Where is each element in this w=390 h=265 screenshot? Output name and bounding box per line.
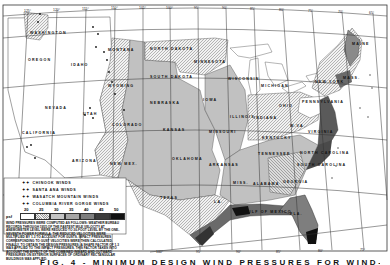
state-label: MONTANA xyxy=(108,48,135,52)
state-label: MISS. xyxy=(233,181,249,185)
state-label: ARKANSAS xyxy=(209,163,239,167)
scale-unit: psf xyxy=(6,214,12,219)
state-label: WISCONSIN xyxy=(228,77,260,81)
state-label: WYOMING xyxy=(108,84,134,88)
scale-value: 30 xyxy=(54,207,58,212)
state-label: CALIFORNIA xyxy=(22,131,56,135)
longitude-tick-label: 90° xyxy=(222,6,227,10)
longitude-tick-label: 105° xyxy=(139,6,146,10)
state-label: INDIANA xyxy=(254,116,277,120)
longitude-tick-label: 75° xyxy=(360,248,365,252)
longitude-tick-label: 95° xyxy=(194,6,199,10)
wind-marker-icon: ✦✦ xyxy=(22,194,29,199)
scale-swatch xyxy=(20,213,35,220)
state-label: SOUTH DAKOTA xyxy=(150,75,193,79)
state-label: NEBRASKA xyxy=(150,101,180,105)
scale-value: 35 xyxy=(69,207,73,212)
state-label: GULF OF MEXICO xyxy=(244,210,292,214)
scale-swatch xyxy=(65,213,80,220)
state-label: MASS. xyxy=(343,76,360,80)
state-label: VIRGINIA xyxy=(308,130,334,134)
state-label: SOUTH CAROLINA xyxy=(297,163,346,167)
state-label: MAINE xyxy=(352,42,370,46)
state-label: OHIO xyxy=(279,104,293,108)
longitude-tick-label: 125° xyxy=(24,9,31,13)
longitude-tick-label: 85° xyxy=(250,7,255,11)
longitude-tick-label: 85° xyxy=(276,250,281,254)
longitude-tick-label: 80° xyxy=(279,8,284,12)
longitude-tick-label: 65° xyxy=(369,11,374,15)
state-label: FLA. xyxy=(290,212,303,216)
longitude-tick-label: 110° xyxy=(111,6,118,10)
legend-chinook: ✦✦CHINOOK WINDS xyxy=(22,180,71,185)
state-label: IDAHO xyxy=(71,63,89,67)
longitude-tick-label: 70° xyxy=(338,10,343,14)
state-label: UTAH xyxy=(83,112,98,116)
scale-value: 40 xyxy=(84,207,88,212)
longitude-tick-label: 115° xyxy=(82,7,89,11)
scale-swatch xyxy=(95,213,110,220)
state-label: NEVADA xyxy=(45,106,67,110)
state-label: COLORADO xyxy=(112,123,143,127)
state-label: TEXAS xyxy=(160,196,178,200)
figure-caption: FIG. 4 - MINIMUM DESIGN WIND PRESSURES F… xyxy=(40,257,380,265)
longitude-tick-label: 95° xyxy=(196,250,201,254)
state-label: TENNESSEE xyxy=(258,152,291,156)
scale-value: 25 xyxy=(39,207,43,212)
state-label: OREGON xyxy=(28,58,51,62)
state-label: LA. xyxy=(214,200,223,204)
state-label: ARIZONA xyxy=(72,159,97,163)
state-label: KANSAS xyxy=(163,128,185,132)
scale-value: 45 xyxy=(99,207,103,212)
state-label: NORTH DAKOTA xyxy=(150,47,193,51)
legend-santa-ana: ✦✦SANTA ANA WINDS xyxy=(22,187,76,192)
wind-marker-icon: ✦✦ xyxy=(22,201,29,206)
longitude-tick-label: 75° xyxy=(308,9,313,13)
state-label: ALABAMA xyxy=(253,182,280,186)
state-label: KENTUCKY xyxy=(262,136,292,140)
state-label: NEW MEX. xyxy=(110,162,138,166)
longitude-tick-label: 90° xyxy=(236,250,241,254)
scale-swatch xyxy=(80,213,95,220)
computation-note: Wind pressures were computed as follows:… xyxy=(6,222,124,262)
wind-marker-icon: ✦✦ xyxy=(22,187,29,192)
longitude-tick-label: 120° xyxy=(53,8,60,12)
wind-marker-icon: ✦✦ xyxy=(22,180,29,185)
pressure-scale: psf 20253035404550 xyxy=(4,207,126,221)
state-label: W.VA. xyxy=(290,124,306,128)
longitude-tick-label: 80° xyxy=(318,249,323,253)
state-label: GEORGIA xyxy=(283,180,308,184)
legend-columbia: ✦✦COLUMBIA RIVER GORGE WINDS xyxy=(22,201,109,206)
state-label: WASHINGTON xyxy=(30,31,67,35)
longitude-tick-label: 100° xyxy=(166,6,173,10)
state-label: PENNSYLVANIA xyxy=(302,100,344,104)
state-label: NORTH CAROLINA xyxy=(300,151,350,155)
state-label: MINNESOTA xyxy=(194,60,226,64)
scale-swatch xyxy=(50,213,65,220)
scale-value: 20 xyxy=(24,207,28,212)
legend-wasatch: ✦✦WASATCH MOUNTAIN WINDS xyxy=(22,194,99,199)
state-label: OKLAHOMA xyxy=(172,157,203,161)
scale-swatch xyxy=(35,213,50,220)
state-label: MICHIGAN xyxy=(261,84,289,88)
state-label: ILLINOIS xyxy=(230,115,255,119)
state-label: NEW YORK xyxy=(315,80,344,84)
longitude-tick-label: 100° xyxy=(156,250,163,254)
scale-value: 50 xyxy=(114,207,118,212)
state-label: MISSOURI xyxy=(209,130,236,134)
scale-swatch xyxy=(110,213,125,220)
state-label: IOWA xyxy=(203,98,217,102)
